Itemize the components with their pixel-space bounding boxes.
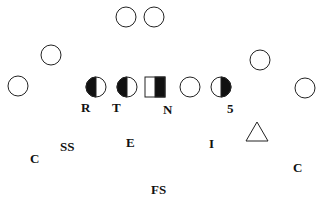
lineman-half-right-circle [211, 77, 231, 97]
lineman-half-left-circle [86, 77, 106, 97]
formation-diagram [0, 0, 323, 208]
offense-wide-circle [295, 78, 315, 98]
label-fs: FS [151, 183, 166, 196]
label-c-right: C [293, 161, 302, 174]
label-ss: SS [60, 140, 74, 153]
offense-back-circle [116, 7, 136, 27]
lineman-circle [180, 77, 200, 97]
defense-triangle-marker [246, 122, 268, 141]
label-n: N [163, 103, 172, 116]
offense-wing-circle [41, 45, 61, 65]
offense-wide-circle [8, 76, 28, 96]
center-half-square [145, 77, 165, 97]
label-t: T [112, 101, 121, 114]
lineman-half-left-circle [117, 77, 137, 97]
label-e: E [126, 136, 135, 149]
offense-back-circle [144, 7, 164, 27]
offense-wing-circle [250, 50, 270, 70]
label-i: I [209, 137, 214, 150]
label-c-left: C [30, 152, 39, 165]
label-r: R [81, 101, 90, 114]
label-5: 5 [227, 102, 234, 115]
